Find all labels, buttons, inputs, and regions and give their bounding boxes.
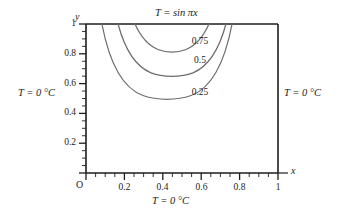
contour-label-05: 0.5 (186, 56, 214, 66)
origin-label: O (76, 180, 83, 190)
top-boundary-label: T = sin πx (155, 8, 198, 19)
contour-label-025: 0.25 (184, 88, 216, 98)
y-tick-label-1: 1 (56, 19, 76, 29)
left-boundary-label: T = 0 °C (18, 88, 55, 99)
x-tick-label-08: 0.8 (226, 183, 253, 193)
right-boundary-label: T = 0 °C (284, 88, 321, 99)
x-tick-label-02: 0.2 (111, 183, 138, 193)
y-tick-label-02: 0.2 (50, 138, 76, 148)
x-axis-name: x (291, 166, 295, 176)
contour-label-075: 0.75 (184, 37, 216, 47)
isotherm-contour-figure: 1 0.8 0.6 0.4 0.2 0.2 0.4 0.6 0.8 1 O y … (0, 0, 338, 217)
x-tick-label-06: 0.6 (188, 183, 215, 193)
y-tick-label-04: 0.4 (50, 108, 76, 118)
y-axis-name: y (75, 12, 79, 22)
x-tick-label-04: 0.4 (149, 183, 176, 193)
x-tick-label-1: 1 (268, 183, 288, 193)
bottom-boundary-label: T = 0 °C (152, 196, 189, 207)
y-tick-label-08: 0.8 (50, 49, 76, 59)
contour-curve-05 (118, 24, 226, 76)
